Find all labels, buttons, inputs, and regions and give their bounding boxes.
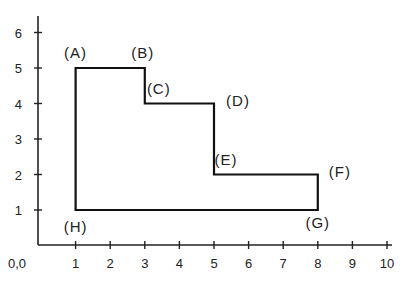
y-tick-label: 2 [15,168,22,183]
y-tick-label: 4 [15,97,22,112]
stepped-polygon-diagram: 12345678910123456 (A)(B)(C)(D)(E)(F)(G)(… [0,0,413,284]
vertex-label-f: (F) [329,163,351,180]
y-tick-label: 1 [15,203,22,218]
y-tick-label: 6 [15,26,22,41]
x-tick-label: 1 [72,256,79,271]
vertex-label-e: (E) [215,151,238,168]
vertex-label-h: (H) [64,218,88,235]
x-tick-label: 4 [176,256,183,271]
x-tick-label: 8 [314,256,321,271]
x-tick-label: 6 [245,256,252,271]
x-tick-label: 9 [349,256,356,271]
y-tick-label: 5 [15,61,22,76]
x-tick-label: 7 [280,256,287,271]
x-tick-label: 2 [107,256,114,271]
origin-label: 0,0 [8,256,26,271]
x-tick-label: 3 [141,256,148,271]
vertex-labels: (A)(B)(C)(D)(E)(F)(G)(H) [64,44,351,235]
vertex-label-a: (A) [64,44,87,61]
vertex-label-b: (B) [131,44,154,61]
x-tick-label: 5 [210,256,217,271]
polygon-shape [76,68,318,210]
vertex-label-d: (D) [226,92,250,109]
vertex-label-g: (G) [305,214,330,231]
x-tick-label: 10 [380,256,394,271]
vertex-label-c: (C) [147,80,171,97]
y-tick-label: 3 [15,132,22,147]
